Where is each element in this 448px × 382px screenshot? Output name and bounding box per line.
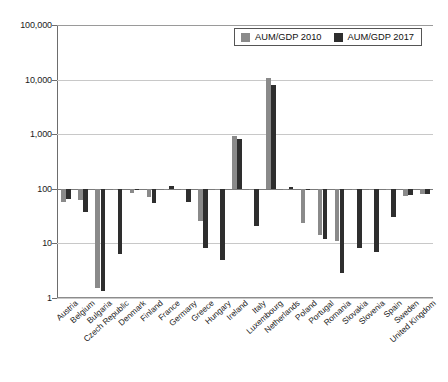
bar-group [57,25,74,298]
bar [408,189,413,195]
bar [266,78,271,188]
bar [130,189,135,193]
bar [425,189,430,194]
chart-legend: AUM/GDP 2010 AUM/GDP 2017 [234,28,422,46]
bar [340,189,345,273]
bar [283,189,288,190]
bar [271,85,276,188]
bar [369,189,374,190]
bar-group [160,25,177,298]
bar-group [313,25,330,298]
bar-group [91,25,108,298]
bar [403,189,408,196]
bar [254,189,259,226]
bar-group [399,25,416,298]
bar-group [330,25,347,298]
plot-area [57,25,433,298]
bar-group [279,25,296,298]
bar [164,189,169,190]
bar [249,189,254,190]
bar [352,189,357,190]
legend-label-2010: AUM/GDP 2010 [255,32,322,42]
bar [323,189,328,239]
bar [203,189,208,248]
bar [318,189,323,236]
bars-layer [57,25,433,298]
bar [186,189,191,202]
bar-group [211,25,228,298]
bar-group [416,25,433,298]
bar [78,189,83,200]
bar [66,189,71,199]
bar-group [262,25,279,298]
legend-swatch-2010-icon [241,33,250,42]
y-tick-label-10: 10 [42,238,52,248]
bar [169,186,174,189]
legend-item-2010: AUM/GDP 2010 [241,32,322,42]
bar-group [348,25,365,298]
bar-group [382,25,399,298]
bar [335,189,340,241]
bar [101,189,106,291]
bar [301,189,306,223]
bar-group [142,25,159,298]
bar [181,189,186,190]
y-tick-label-100: 100 [37,184,52,194]
bar-group [365,25,382,298]
bar [152,189,157,203]
bar-group [177,25,194,298]
aum-gdp-bar-chart: 100,00010,0001,000100101 AustriaBelgiumB… [0,0,448,382]
bar [95,189,100,289]
bar [61,189,66,202]
bar [391,189,396,218]
bar [420,189,425,194]
bar [83,189,88,213]
bar-group [194,25,211,298]
bar [386,189,391,190]
y-tick-label-1000: 1,000 [30,129,52,139]
bar [147,189,152,197]
bar-group [74,25,91,298]
bar-group [108,25,125,298]
bar [118,189,123,254]
bar [135,189,140,190]
bar [357,189,362,248]
bar [232,136,237,188]
legend-swatch-2017-icon [334,33,343,42]
bar-group [125,25,142,298]
bar-group [245,25,262,298]
bar-group [228,25,245,298]
legend-label-2017: AUM/GDP 2017 [348,32,415,42]
bar [215,189,220,190]
bar [289,187,294,189]
y-tick-label-10000: 10,000 [25,75,52,85]
bar [306,189,311,190]
bar [374,189,379,252]
y-tick-label-100000: 100,000 [20,20,52,30]
y-axis: 100,00010,0001,000100101 [0,25,52,298]
x-axis-labels: AustriaBelgiumBulgariaCzech RepublicDenm… [57,298,448,382]
bar [237,139,242,188]
bar [113,189,118,190]
bar [220,189,225,260]
bar [198,189,203,221]
legend-item-2017: AUM/GDP 2017 [334,32,415,42]
bar-group [296,25,313,298]
